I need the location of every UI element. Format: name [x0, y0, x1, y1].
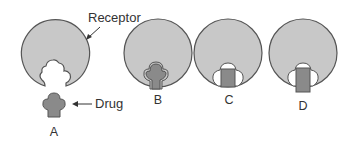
- drug-arrow-icon: [72, 101, 92, 107]
- panel-a-drug: [43, 93, 65, 117]
- panel-label-d: D: [298, 99, 307, 113]
- panel-d-receptor: [269, 19, 337, 92]
- panel-c-receptor: [194, 19, 262, 87]
- receptor-arrow-icon: [86, 27, 100, 40]
- panel-a-receptor: [22, 20, 90, 86]
- receptor-label: Receptor: [88, 10, 141, 25]
- panel-label-a: A: [50, 125, 59, 139]
- panel-b-receptor: [124, 19, 192, 89]
- drug-label: Drug: [95, 96, 123, 111]
- panel-label-c: C: [224, 93, 233, 107]
- drug-receptor-diagram: Receptor Drug A B C D: [0, 0, 354, 141]
- panel-label-b: B: [154, 93, 162, 107]
